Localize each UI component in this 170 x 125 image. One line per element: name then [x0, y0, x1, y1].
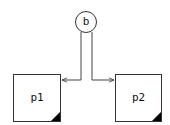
node-p2-label: p2	[116, 91, 161, 104]
edge-b-p2	[92, 32, 114, 80]
node-b-label: b	[76, 15, 96, 28]
node-p1-label: p1	[14, 91, 60, 104]
edge-b-p1	[62, 32, 81, 80]
